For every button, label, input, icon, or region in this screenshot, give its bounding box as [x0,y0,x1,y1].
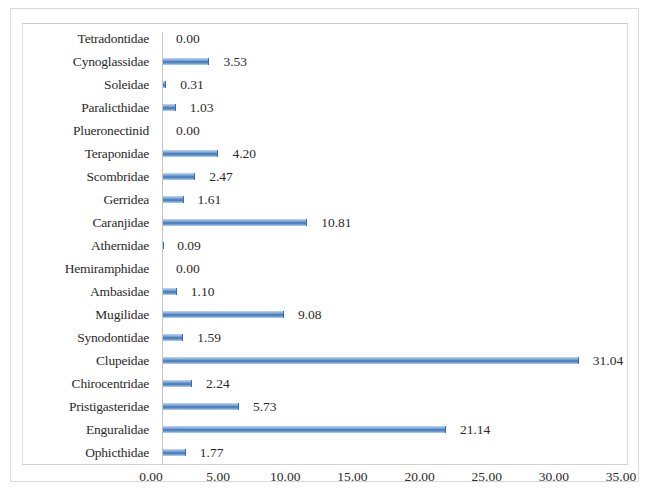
bar-track: 0.09 [153,234,640,257]
bar-track: 1.03 [153,96,640,119]
bar-track: 0.00 [153,119,640,142]
value-label: 0.09 [177,234,201,257]
bar-row: Athernidae0.09 [11,234,640,257]
bar [162,334,183,341]
bar [162,150,218,157]
value-axis-tick: 15.00 [322,469,382,485]
bar-row: Teraponidae4.20 [11,142,640,165]
value-label: 31.04 [593,349,623,372]
category-label: Ophicthidae [11,441,149,464]
bar-track: 21.14 [153,418,640,441]
value-label: 0.00 [176,119,200,142]
value-label: 0.00 [176,27,200,50]
bar-row: Chirocentridae2.24 [11,372,640,395]
value-label: 0.31 [180,73,204,96]
bar-rows: Tetradontidae0.00Cynoglassidae3.53Soleid… [11,27,640,464]
bar-track: 1.77 [153,441,640,464]
category-label: Teraponidae [11,142,149,165]
bar-row: Soleidae0.31 [11,73,640,96]
bar-track: 10.81 [153,211,640,234]
bar [162,196,184,203]
value-label: 2.47 [209,165,233,188]
value-axis-line [22,464,628,465]
value-label: 21.14 [460,418,490,441]
category-label: Scombridae [11,165,149,188]
bar-row: Synodontidae1.59 [11,326,640,349]
bar [162,426,446,433]
value-label: 5.73 [253,395,277,418]
bar-track: 0.00 [153,27,640,50]
bar-row: Gerridea1.61 [11,188,640,211]
category-label: Ambasidae [11,280,149,303]
bar-row: Ophicthidae1.77 [11,441,640,464]
bar-row: Ambasidae1.10 [11,280,640,303]
bar-row: Plueronectinid0.00 [11,119,640,142]
value-label: 3.53 [223,50,247,73]
value-axis-tick: 0.00 [121,469,181,485]
category-label: Hemiramphidae [11,257,149,280]
category-label: Synodontidae [11,326,149,349]
category-label: Athernidae [11,234,149,257]
value-label: 1.77 [200,441,224,464]
bar-track: 0.31 [153,73,640,96]
bar [162,403,239,410]
category-label: Chirocentridae [11,372,149,395]
category-label: Caranjidae [11,211,149,234]
bar-row: Enguralidae21.14 [11,418,640,441]
value-label: 1.59 [197,326,221,349]
category-label: Clupeidae [11,349,149,372]
value-label: 9.08 [298,303,322,326]
value-label: 10.81 [321,211,351,234]
chart-container: Tetradontidae0.00Cynoglassidae3.53Soleid… [10,8,639,482]
value-axis-tick: 25.00 [457,469,517,485]
bar [162,449,186,456]
bar-row: Clupeidae31.04 [11,349,640,372]
bar-row: Cynoglassidae3.53 [11,50,640,73]
value-label: 1.03 [190,96,214,119]
bar [162,311,284,318]
category-label: Enguralidae [11,418,149,441]
bar-track: 1.10 [153,280,640,303]
category-label: Tetradontidae [11,27,149,50]
category-axis-line [162,32,163,464]
bar-track: 1.59 [153,326,640,349]
category-label: Plueronectinid [11,119,149,142]
category-label: Mugilidae [11,303,149,326]
category-label: Paralicthidae [11,96,149,119]
bar-track: 3.53 [153,50,640,73]
bar [162,380,192,387]
bar-row: Tetradontidae0.00 [11,27,640,50]
bar-row: Scombridae2.47 [11,165,640,188]
value-axis-tick: 30.00 [524,469,584,485]
value-axis-tick: 10.00 [255,469,315,485]
category-label: Cynoglassidae [11,50,149,73]
bar [162,58,209,65]
bar-row: Mugilidae9.08 [11,303,640,326]
bar-track: 9.08 [153,303,640,326]
bar-row: Caranjidae10.81 [11,211,640,234]
bar [162,104,176,111]
value-label: 0.00 [176,257,200,280]
bar-track: 2.47 [153,165,640,188]
value-axis-tick: 35.00 [591,469,650,485]
bar [162,357,579,364]
value-axis-tick: 5.00 [188,469,248,485]
value-axis-tick-labels: 0.005.0010.0015.0020.0025.0030.0035.00 [11,469,650,491]
value-label: 2.24 [206,372,230,395]
value-axis-tick: 20.00 [390,469,450,485]
category-label: Soleidae [11,73,149,96]
bar-row: Paralicthidae1.03 [11,96,640,119]
bar-track: 1.61 [153,188,640,211]
bar [162,288,177,295]
value-label: 1.10 [191,280,215,303]
bar-track: 5.73 [153,395,640,418]
bar-row: Hemiramphidae0.00 [11,257,640,280]
category-label: Pristigasteridae [11,395,149,418]
category-label: Gerridea [11,188,149,211]
bar-track: 31.04 [153,349,640,372]
bar-row: Pristigasteridae5.73 [11,395,640,418]
value-label: 1.61 [198,188,222,211]
bar-track: 2.24 [153,372,640,395]
bar-track: 0.00 [153,257,640,280]
bar-track: 4.20 [153,142,640,165]
